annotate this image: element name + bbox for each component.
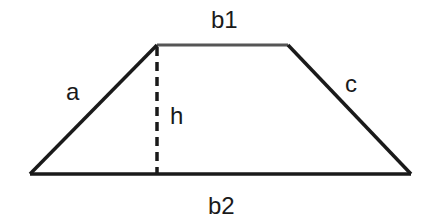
label-b1: b1 xyxy=(211,6,238,33)
label-a: a xyxy=(66,78,80,105)
label-b2: b2 xyxy=(208,192,235,219)
right-side-c xyxy=(288,45,411,174)
label-h: h xyxy=(170,102,183,129)
left-side-a xyxy=(30,45,157,174)
trapezoid-diagram: b1 a h c b2 xyxy=(0,0,428,220)
label-c: c xyxy=(345,70,357,97)
